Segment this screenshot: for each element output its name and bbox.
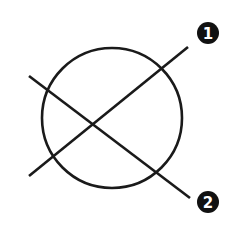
number-badge-2: 2 [197, 191, 219, 213]
diagonal-line-2 [29, 76, 190, 198]
diagonal-line-1 [29, 47, 188, 176]
number-badge-1: 1 [197, 22, 219, 44]
badge-2-label: 2 [203, 194, 213, 212]
badge-1-label: 1 [203, 25, 213, 43]
crossed-circle-diagram: 1 2 [0, 0, 234, 231]
